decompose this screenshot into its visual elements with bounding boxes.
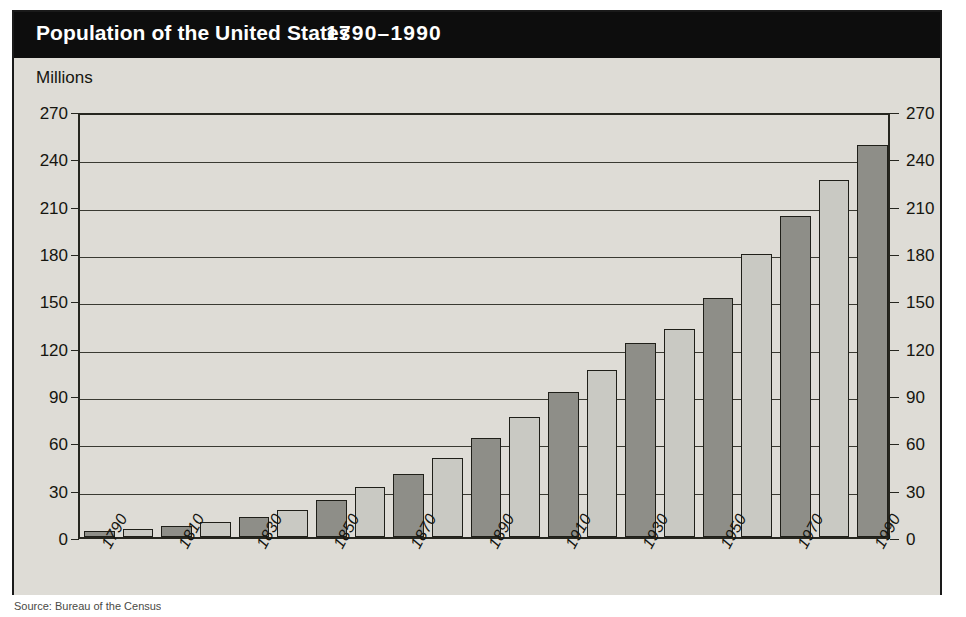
y-tick-right-60: 60: [906, 436, 925, 453]
y-tick-right-150: 150: [906, 294, 934, 311]
y-tickmark-right-150: [890, 302, 899, 303]
y-tickmark-left-90: [71, 397, 79, 398]
y-tickmark-left-150: [71, 302, 79, 303]
y-tick-right-270: 270: [906, 105, 934, 122]
bar-1940: [664, 329, 695, 537]
y-tick-left-240: 240: [14, 152, 68, 169]
chart-title: Population of the United States: [36, 21, 351, 45]
y-tickmark-right-210: [890, 208, 899, 209]
bar-1990: [857, 145, 888, 537]
y-tickmark-left-240: [71, 160, 79, 161]
y-tickmark-right-240: [890, 160, 899, 161]
y-tickmark-right-120: [890, 350, 899, 351]
y-tickmark-left-180: [71, 255, 79, 256]
bar-1800: [123, 529, 154, 537]
y-tick-right-180: 180: [906, 247, 934, 264]
bar-1910: [548, 392, 579, 537]
bar-1930: [625, 343, 656, 537]
y-tick-right-90: 90: [906, 389, 925, 406]
y-tick-right-210: 210: [906, 200, 934, 217]
x-axis-labels: 1790181018301850187018901910193019501970…: [78, 539, 890, 595]
y-tickmark-left-120: [71, 350, 79, 351]
bar-1980: [819, 180, 850, 537]
y-tick-left-0: 0: [14, 531, 68, 548]
y-tick-left-270: 270: [14, 105, 68, 122]
y-tickmark-right-0: [890, 539, 899, 540]
bar-series: [80, 115, 888, 537]
y-tick-left-120: 120: [14, 342, 68, 359]
y-tick-left-90: 90: [14, 389, 68, 406]
chart-figure: Population of the United States 1790–199…: [12, 10, 942, 595]
y-tick-right-30: 30: [906, 484, 925, 501]
title-band: Population of the United States 1790–199…: [14, 12, 940, 58]
plot-frame: [78, 113, 890, 539]
y-tickmark-right-90: [890, 397, 899, 398]
y-tickmark-right-270: [890, 113, 899, 114]
y-tick-left-30: 30: [14, 484, 68, 501]
y-tick-left-60: 60: [14, 436, 68, 453]
bar-1950: [703, 298, 734, 537]
y-tickmark-right-30: [890, 492, 899, 493]
chart-area: Millions 1790181018301850187018901910193…: [14, 58, 940, 595]
y-tickmark-left-210: [71, 208, 79, 209]
y-tick-right-120: 120: [906, 342, 934, 359]
y-tickmark-left-30: [71, 492, 79, 493]
source-note: Source: Bureau of the Census: [14, 600, 161, 615]
bar-1860: [355, 487, 386, 537]
y-tick-left-150: 150: [14, 294, 68, 311]
y-axis-units-label: Millions: [36, 68, 93, 88]
bar-1960: [741, 254, 772, 537]
y-tickmark-right-180: [890, 255, 899, 256]
y-tick-left-210: 210: [14, 200, 68, 217]
y-tickmark-left-60: [71, 444, 79, 445]
bar-1920: [587, 370, 618, 537]
y-tickmark-left-270: [71, 113, 79, 114]
chart-title-range: 1790–1990: [326, 21, 442, 45]
chart-page: Population of the United States 1790–199…: [0, 0, 966, 617]
bar-1970: [780, 216, 811, 537]
y-tick-right-240: 240: [906, 152, 934, 169]
y-tick-left-180: 180: [14, 247, 68, 264]
y-tickmark-left-0: [71, 539, 79, 540]
y-tick-right-0: 0: [906, 531, 915, 548]
y-tickmark-right-60: [890, 444, 899, 445]
